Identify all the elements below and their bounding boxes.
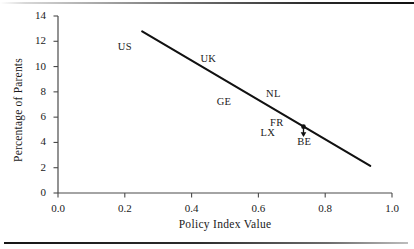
y-axis-tick-label: 12 [20,34,46,46]
y-axis-tick-label: 14 [20,9,46,21]
y-axis-tick-label: 8 [20,85,46,97]
trend-line [142,31,370,165]
x-axis-tick-label: 0.8 [305,202,345,214]
point-label-us: US [118,41,132,52]
x-axis-tick-label: 0.2 [105,202,145,214]
x-axis-tick-marks [58,193,392,198]
point-label-ge: GE [217,95,232,106]
point-label-nl: NL [266,88,281,99]
y-axis-tick-label: 10 [20,60,46,72]
y-axis-tick-label: 0 [20,186,46,198]
point-label-uk: UK [200,52,216,63]
y-axis-tick-label: 6 [20,110,46,122]
x-axis-title: Policy Index Value [58,218,392,230]
x-axis-tick-label: 1.0 [372,202,412,214]
y-axis-tick-label: 4 [20,135,46,147]
x-axis-tick-label: 0.6 [238,202,278,214]
x-axis-tick-label: 0.0 [38,202,78,214]
chart-figure: Percentage of Parents Policy Index Value… [0,0,414,249]
y-axis-tick-label: 2 [20,161,46,173]
point-label-be: BE [297,135,311,146]
y-axis-tick-marks [54,16,59,193]
x-axis-tick-label: 0.4 [172,202,212,214]
trend-line-segment [142,31,370,165]
point-label-lx: LX [260,126,275,137]
